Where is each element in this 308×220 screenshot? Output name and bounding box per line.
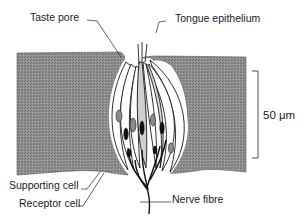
scale-bar xyxy=(252,71,258,158)
label-supporting-cell: Supporting cell xyxy=(9,179,78,191)
label-nerve-fibre: Nerve fibre xyxy=(172,193,224,205)
scale-bar-label: 50 μm xyxy=(263,109,295,121)
label-receptor-cell: Receptor cell xyxy=(19,197,80,209)
taste-bud-diagram: Taste pore Tongue epithelium Supporting … xyxy=(0,0,308,220)
label-tongue-epithelium: Tongue epithelium xyxy=(175,12,260,24)
label-taste-pore: Taste pore xyxy=(30,11,79,23)
